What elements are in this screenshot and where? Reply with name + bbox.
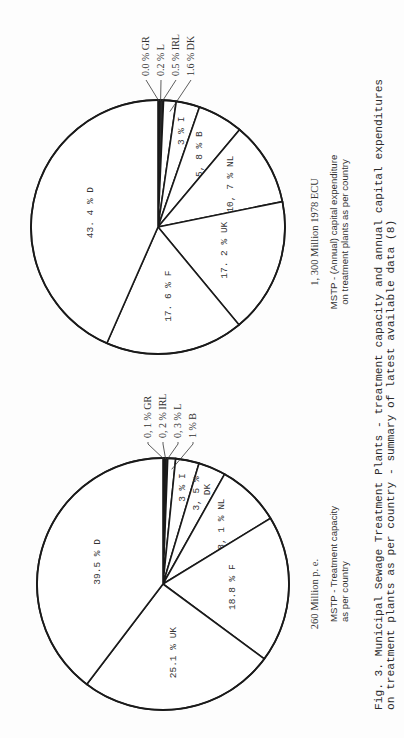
slice-label-text: 8, 1 % NL bbox=[216, 498, 227, 550]
expenditure-title-line2: on treatment plants as per country bbox=[339, 159, 350, 305]
slice-label-d: 39.5 % D bbox=[92, 539, 103, 585]
capacity-title-line1: MSTP - Treatment capacity bbox=[328, 506, 339, 622]
slice-label-f: 17. 6 % F bbox=[163, 270, 174, 322]
slice-label-i: 3 % I bbox=[177, 473, 188, 502]
slice-label-text: 39.5 % D bbox=[92, 539, 103, 585]
callout-label-text: 0, 1 % GR bbox=[142, 395, 153, 438]
callout-leader-irl bbox=[163, 442, 166, 459]
capacity-title-line2: as per country bbox=[339, 561, 350, 622]
expenditure-title: MSTP - (Annual) capital expenditure on t… bbox=[328, 155, 350, 309]
slice-label-text: DK bbox=[202, 484, 213, 496]
callout-label-text: 0.2 % L bbox=[155, 44, 166, 76]
capacity-title: MSTP - Treatment capacity as per country bbox=[328, 506, 350, 622]
expenditure-total: 1, 300 Million 1978 ECU bbox=[309, 178, 320, 286]
figure-page: 3 % I5, 8 % B10, 7 % NL17. 2 % UK17. 6 %… bbox=[0, 0, 404, 738]
callout-leader-l bbox=[167, 442, 178, 459]
callout-label-text: 0, 3 % L bbox=[172, 404, 183, 438]
slice-label-b: 5, 8 % B bbox=[194, 131, 205, 177]
slice-label-uk: 25.1 % UK bbox=[168, 627, 179, 679]
callout-label-gr: 0.0 % GR bbox=[140, 36, 151, 76]
expenditure-title-line1: MSTP - (Annual) capital expenditure bbox=[328, 155, 339, 309]
callout-leader-gr bbox=[148, 442, 164, 459]
slice-label-text: 25.1 % UK bbox=[168, 627, 179, 679]
slice-label-text: 18.8 % F bbox=[227, 564, 238, 610]
callout-label-text: 1 % B bbox=[187, 413, 198, 438]
callout-label-gr: 0, 1 % GR bbox=[142, 395, 153, 438]
callout-label-b: 1 % B bbox=[187, 413, 198, 438]
callout-leader-irl bbox=[162, 80, 176, 101]
slice-label-nl: 8, 1 % NL bbox=[216, 498, 227, 550]
slice-label-text: 3, 5 % bbox=[191, 476, 202, 511]
slice-label-text: 3 % I bbox=[176, 117, 187, 146]
callout-leader-gr bbox=[146, 80, 159, 101]
capacity-total-label: 260 Million p. e. bbox=[309, 559, 320, 629]
pie-chart-capacity: 3 % I3, 5 %DK8, 1 % NL18.8 % F25.1 % UK3… bbox=[37, 394, 289, 710]
slice-label-text: 3 % I bbox=[177, 473, 188, 502]
callout-label-irl: 0.5 % IRL bbox=[170, 34, 181, 76]
callout-label-text: 1.6 % DK bbox=[185, 35, 196, 76]
callout-label-text: 0, 2 % IRL bbox=[157, 394, 168, 438]
slice-label-i: 3 % I bbox=[176, 117, 187, 146]
callout-label-l: 0, 3 % L bbox=[172, 404, 183, 438]
slice-label-uk: 17. 2 % UK bbox=[219, 221, 230, 278]
slice-label-nl: 10, 7 % NL bbox=[225, 155, 236, 212]
slice-label-text: 17. 6 % F bbox=[163, 270, 174, 322]
callout-label-dk: 1.6 % DK bbox=[185, 35, 196, 76]
pie-chart-expenditure: 3 % I5, 8 % B10, 7 % NL17. 2 % UK17. 6 %… bbox=[31, 34, 285, 354]
slice-label-text: 5, 8 % B bbox=[194, 131, 205, 177]
slice-label-text: 17. 2 % UK bbox=[219, 221, 230, 278]
capacity-total: 260 Million p. e. bbox=[309, 559, 320, 629]
slice-label-text: 43. 4 % D bbox=[85, 187, 96, 239]
callout-label-text: 0.0 % GR bbox=[140, 36, 151, 76]
slice-label-text: 10, 7 % NL bbox=[225, 155, 236, 212]
caption-line2: on treatment plants as per country - sum… bbox=[385, 220, 397, 710]
slice-label-f: 18.8 % F bbox=[227, 564, 238, 610]
callout-label-irl: 0, 2 % IRL bbox=[157, 394, 168, 438]
callout-label-text: 0.5 % IRL bbox=[170, 34, 181, 76]
expenditure-total-label: 1, 300 Million 1978 ECU bbox=[309, 178, 320, 286]
figure-canvas: 3 % I5, 8 % B10, 7 % NL17. 2 % UK17. 6 %… bbox=[0, 0, 404, 738]
figure-caption: Fig. 3. Municipal Sewage Treatment Plant… bbox=[373, 79, 397, 710]
slice-label-d: 43. 4 % D bbox=[85, 187, 96, 239]
callout-label-l: 0.2 % L bbox=[155, 44, 166, 76]
caption-line1: Fig. 3. Municipal Sewage Treatment Plant… bbox=[373, 79, 385, 710]
